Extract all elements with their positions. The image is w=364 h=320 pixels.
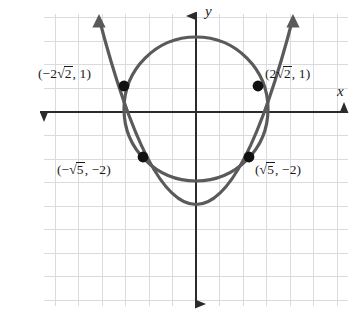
coefficient: −2 xyxy=(43,66,58,81)
comma: , xyxy=(85,162,92,177)
intersection-points xyxy=(119,81,264,163)
point-lower-left xyxy=(138,152,149,163)
y-value: −2 xyxy=(92,162,107,177)
coefficient: 2 xyxy=(270,66,277,81)
paren-close: ) xyxy=(86,66,91,81)
radical-icon: √2 xyxy=(276,66,291,81)
point-label-upper-right: (2√2, 1) xyxy=(265,66,310,81)
point-lower-right xyxy=(244,152,255,163)
radical-icon: √5 xyxy=(69,162,84,177)
y-axis-label: y xyxy=(205,4,212,19)
comma: , xyxy=(275,162,282,177)
point-upper-right xyxy=(253,81,264,92)
point-label-upper-left: (−2√2, 1) xyxy=(38,66,91,81)
paren-close: ) xyxy=(297,162,302,177)
radical-icon: √2 xyxy=(57,66,72,81)
paren-close: ) xyxy=(106,162,111,177)
comma: , xyxy=(73,66,80,81)
radicand: 2 xyxy=(64,66,73,81)
x-axis-label: x xyxy=(337,84,344,99)
graph-figure: y x (−2√2, 1) (2√2, 1) (−√5, −2) (√5, −2… xyxy=(0,0,364,320)
y-value: −2 xyxy=(282,162,297,177)
point-upper-left xyxy=(119,81,130,92)
paren-close: ) xyxy=(306,66,311,81)
point-label-lower-left: (−√5, −2) xyxy=(57,162,111,177)
coordinate-plane xyxy=(0,0,364,320)
radicand: 5 xyxy=(76,162,85,177)
point-label-lower-right: (√5, −2) xyxy=(255,162,301,177)
y-value: 1 xyxy=(299,66,306,81)
coefficient: − xyxy=(62,162,70,177)
radical-icon: √5 xyxy=(260,162,275,177)
radicand: 2 xyxy=(283,66,292,81)
radicand: 5 xyxy=(266,162,275,177)
comma: , xyxy=(292,66,299,81)
